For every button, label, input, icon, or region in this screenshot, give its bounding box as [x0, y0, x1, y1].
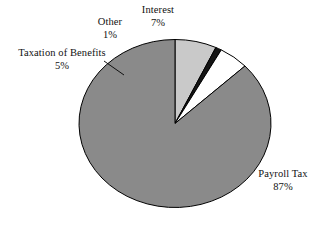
slice-label-payroll-tax-name: Payroll Tax — [244, 168, 322, 181]
slice-label-other-name: Other — [82, 16, 138, 29]
slice-label-payroll-tax-percent: 87% — [244, 181, 322, 194]
slice-label-interest-name: Interest — [126, 4, 190, 17]
slice-label-payroll-tax: Payroll Tax 87% — [244, 168, 322, 193]
slice-label-other: Other 1% — [82, 16, 138, 41]
slice-label-taxation-of-benefits-name: Taxation of Benefits — [6, 47, 118, 60]
slice-label-taxation-of-benefits: Taxation of Benefits 5% — [6, 47, 118, 72]
pie-chart-figure: Interest 7% Other 1% Taxation of Benefit… — [0, 0, 326, 226]
slice-label-other-percent: 1% — [82, 29, 138, 42]
slice-label-taxation-of-benefits-percent: 5% — [6, 60, 118, 73]
